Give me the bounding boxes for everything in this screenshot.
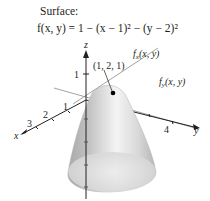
tangent-y-args: (x, y) <box>165 76 186 88</box>
x-axis-label: x <box>13 130 19 141</box>
svg-text:fy(x, y): fy(x, y) <box>159 76 186 89</box>
z-tick-1: 1 <box>74 69 79 80</box>
tangent-point <box>111 91 116 96</box>
tangent-y-label: fy(x, y) <box>159 76 186 89</box>
tangent-x-args: (x, y) <box>139 48 160 60</box>
x-tick-1: 1 <box>63 101 68 112</box>
y-axis-label: y <box>193 125 199 136</box>
z-axis-label: z <box>83 39 88 50</box>
tangent-x-label: fx(x, y) <box>133 48 160 61</box>
svg-text:fx(x, y): fx(x, y) <box>133 48 160 61</box>
paraboloid-base <box>68 152 156 192</box>
x-tick-3: 3 <box>27 118 32 129</box>
paraboloid-diagram: z 1 1 2 3 x 4 y (1, 2, 1) fx(x, y) fy(x,… <box>0 0 210 201</box>
x-tick-2: 2 <box>43 109 48 120</box>
point-label: (1, 2, 1) <box>93 60 125 72</box>
y-tick-4: 4 <box>164 124 169 135</box>
